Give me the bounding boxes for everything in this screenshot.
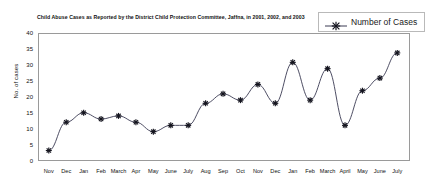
data-point-marker [133, 119, 139, 125]
x-axis-tick-label: Dec [61, 168, 71, 174]
x-axis-tick-label: March [111, 168, 127, 174]
x-axis-tick-label: March [320, 168, 336, 174]
data-point-marker [290, 59, 296, 65]
data-point-marker [394, 50, 400, 56]
x-axis-tick-label: Oct [236, 168, 245, 174]
data-point-marker [150, 129, 156, 135]
data-point-marker [220, 91, 226, 97]
data-point-marker [237, 97, 243, 103]
x-axis-tick-label: June [165, 168, 177, 174]
data-point-marker [185, 122, 191, 128]
data-point-marker [81, 110, 87, 116]
data-point-marker [377, 75, 383, 81]
data-point-marker [325, 66, 331, 72]
x-axis-tick-label: July [392, 168, 402, 174]
x-axis-tick-label: Dec [270, 168, 280, 174]
x-axis-tick-label: Jan [79, 168, 88, 174]
data-point-marker [359, 88, 365, 94]
x-axis-tick-label: Sep [218, 168, 228, 174]
data-point-marker [98, 116, 104, 122]
plot-area [38, 33, 410, 161]
data-point-marker [168, 122, 174, 128]
x-axis-tick-label: Feb [96, 168, 106, 174]
x-axis-tick-label: May [357, 168, 368, 174]
x-axis-tick-label: July [183, 168, 193, 174]
data-series-line [39, 34, 409, 160]
data-point-marker [255, 81, 261, 87]
chart-container: Child Abuse Cases as Reported by the Dis… [0, 0, 429, 191]
x-axis-tick-label: May [148, 168, 159, 174]
data-point-marker [272, 100, 278, 106]
data-point-marker [203, 100, 209, 106]
x-axis-tick-label: Apr [132, 168, 141, 174]
x-axis-tick-label: Jan [288, 168, 297, 174]
data-point-marker [63, 119, 69, 125]
x-axis-tick-label: Nov [253, 168, 263, 174]
x-axis-tick-label: April [339, 168, 350, 174]
x-axis-tick-label: Feb [305, 168, 315, 174]
x-axis-tick-label: Nov [44, 168, 54, 174]
x-axis-tick-label: June [374, 168, 386, 174]
x-axis-tick-label: Aug [201, 168, 211, 174]
data-point-marker [116, 113, 122, 119]
data-point-marker [307, 97, 313, 103]
data-point-marker [342, 122, 348, 128]
data-point-marker [46, 148, 52, 154]
